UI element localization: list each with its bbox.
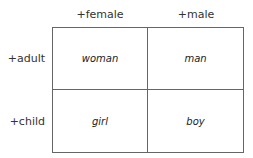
cell-text: man (184, 53, 206, 64)
row-label-child: +child (0, 114, 45, 130)
cell-text: girl (92, 116, 108, 127)
cell-text: woman (82, 53, 119, 64)
cell-text: boy (186, 116, 204, 127)
cell-adult-male: man (148, 28, 243, 90)
row-label-adult: +adult (0, 51, 45, 67)
cell-child-female: girl (53, 90, 148, 152)
matrix-grid: woman man girl boy (52, 27, 244, 153)
column-label-female: +female (52, 7, 148, 23)
column-label-male: +male (148, 7, 244, 23)
cell-child-male: boy (148, 90, 243, 152)
cell-adult-female: woman (53, 28, 148, 90)
